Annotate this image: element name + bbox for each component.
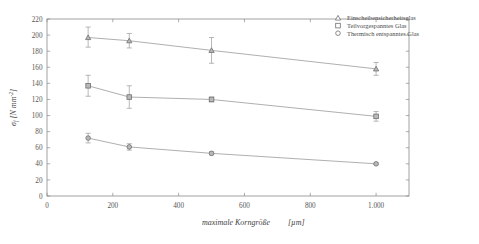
legend-label-0: Einscheibensicherheitsglas xyxy=(347,14,416,21)
x-tick-label: 400 xyxy=(173,202,184,210)
chart-canvas: 0204060801001201401601802002200200400600… xyxy=(0,0,479,244)
y-tick-label: 200 xyxy=(32,32,43,40)
marker-square xyxy=(336,23,341,28)
y-tick-label: 180 xyxy=(32,48,43,56)
y-tick-label: 160 xyxy=(32,64,43,72)
marker-triangle xyxy=(86,35,91,40)
x-axis-title: maximale Korngröße xyxy=(202,218,271,227)
series-line-1 xyxy=(88,86,376,117)
y-tick-label: 80 xyxy=(35,128,43,136)
marker-square xyxy=(209,97,214,102)
x-tick-label: 600 xyxy=(239,202,250,210)
y-axis-title: σf [N mm-2] xyxy=(8,89,19,126)
y-tick-label: 40 xyxy=(35,160,43,168)
x-tick-label: 200 xyxy=(107,202,118,210)
y-tick-label: 60 xyxy=(35,144,43,152)
marker-square xyxy=(374,114,379,119)
y-tick-label: 100 xyxy=(32,112,43,120)
y-tick-label: 140 xyxy=(32,80,43,88)
marker-triangle xyxy=(335,15,340,20)
legend-label-1: Teilvorgespanntes Glas xyxy=(347,22,407,29)
y-tick-label: 120 xyxy=(32,96,43,104)
x-tick-label: 0 xyxy=(45,202,49,210)
legend-label-2: Thermisch entspanntes Glas xyxy=(347,30,420,37)
marker-circle xyxy=(336,31,341,36)
marker-square xyxy=(86,83,91,88)
marker-circle xyxy=(127,145,132,150)
x-axis-unit: [µm] xyxy=(288,218,305,227)
marker-square xyxy=(127,95,132,100)
marker-circle xyxy=(209,151,214,156)
y-tick-label: 220 xyxy=(32,16,43,24)
y-tick-label: 20 xyxy=(35,177,43,185)
chart-figure: 0204060801001201401601802002200200400600… xyxy=(0,0,479,244)
x-tick-label: 1.000 xyxy=(368,202,385,210)
plot-frame xyxy=(47,19,409,196)
y-tick-label: 0 xyxy=(39,193,43,201)
x-tick-label: 800 xyxy=(305,202,316,210)
marker-circle xyxy=(374,162,379,167)
series-line-2 xyxy=(88,138,376,164)
marker-circle xyxy=(86,136,91,141)
